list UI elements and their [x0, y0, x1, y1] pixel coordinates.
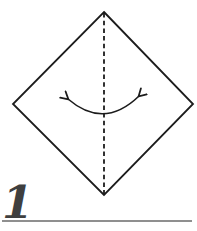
paper-diamond-outline — [13, 12, 193, 195]
origami-step-panel: 1 — [0, 0, 197, 231]
origami-step-diagram: 1 — [0, 0, 197, 231]
